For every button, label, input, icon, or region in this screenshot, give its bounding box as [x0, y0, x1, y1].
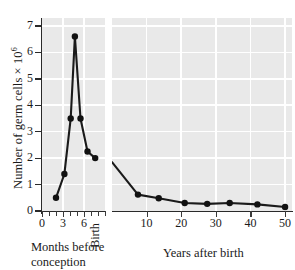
data-point — [226, 200, 232, 206]
x-axis-tick — [105, 211, 106, 216]
x-axis-tick-label: 0 — [31, 217, 53, 229]
data-point — [61, 171, 67, 177]
data-point — [135, 191, 141, 197]
series-left — [42, 18, 105, 211]
data-point — [72, 33, 78, 39]
x-axis-tick-label: 20 — [170, 217, 192, 229]
data-point — [204, 201, 210, 207]
data-point — [84, 148, 90, 154]
x-axis-tick — [70, 211, 71, 216]
y-axis-tick-label: 4 — [20, 98, 33, 110]
series-right — [112, 18, 292, 211]
data-point — [53, 195, 59, 201]
x-axis-tick-label: 30 — [205, 217, 227, 229]
data-point — [156, 195, 162, 201]
x-axis-tick — [77, 211, 78, 216]
data-point — [92, 155, 98, 161]
y-axis-tick-label: 3 — [20, 125, 33, 137]
y-axis-title: Number of germ cells × 106 — [10, 8, 26, 228]
x-axis-tick-label: 10 — [136, 217, 158, 229]
y-axis-tick-label: 1 — [20, 178, 33, 190]
data-point — [181, 200, 187, 206]
data-point — [68, 115, 74, 121]
y-axis-tick-label: 6 — [20, 45, 33, 57]
y-axis-tick — [35, 131, 41, 132]
panel-years-after-birth — [112, 18, 292, 211]
y-axis-tick-label: 0 — [20, 204, 33, 216]
y-axis-tick-label: 2 — [20, 151, 33, 163]
x-axis-title-left-line2: conception — [31, 255, 141, 270]
y-axis-tick-label: 7 — [20, 19, 33, 31]
x-axis-title-right-line1: Years after birth — [163, 246, 293, 261]
y-axis-tick-label: 5 — [20, 72, 33, 84]
x-axis-tick-label: 3 — [52, 217, 74, 229]
y-axis-tick — [35, 105, 41, 106]
x-axis-title-left-line1: Months before — [31, 240, 141, 255]
x-axis-title-right: Years after birth — [163, 246, 293, 261]
x-axis-tick — [49, 211, 50, 216]
y-axis-tick — [35, 52, 41, 53]
x-axis-tick — [56, 211, 57, 216]
y-axis-title-exponent: 6 — [10, 47, 19, 51]
x-axis-tick-label: 40 — [239, 217, 261, 229]
y-axis-tick — [35, 78, 41, 79]
y-axis-tick — [35, 184, 41, 185]
x-axis-title-left: Months before conception — [31, 240, 141, 270]
data-point — [282, 204, 288, 210]
x-axis-line-right — [112, 211, 293, 212]
chart-figure: Number of germ cells × 106 01234567 036 … — [0, 0, 295, 270]
x-axis-tick-label: 50 — [274, 217, 295, 229]
y-axis-tick — [35, 25, 41, 26]
panel-months-before-conception — [42, 18, 105, 211]
data-line — [112, 162, 285, 207]
data-point — [254, 201, 260, 207]
y-axis-tick — [35, 158, 41, 159]
data-point — [77, 115, 83, 121]
